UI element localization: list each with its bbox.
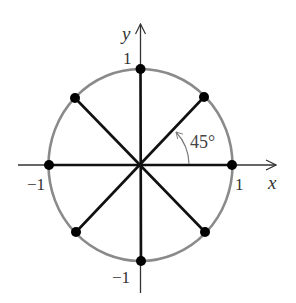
tick-label-x-pos: 1	[235, 175, 244, 194]
angle-arc	[176, 132, 189, 164]
point-135deg	[70, 93, 80, 103]
point-225deg	[71, 227, 81, 237]
point-315deg	[200, 227, 210, 237]
tick-label-y-pos: 1	[123, 49, 132, 68]
y-axis-label: y	[120, 23, 131, 44]
angle-label: 45°	[190, 132, 215, 152]
tick-label-y-neg: −1	[112, 268, 130, 287]
point-45deg	[199, 92, 209, 102]
tick-label-x-neg: −1	[27, 175, 45, 194]
point-0deg	[227, 160, 237, 170]
point-270deg	[136, 256, 146, 266]
point-90deg	[136, 64, 146, 74]
point-180deg	[44, 160, 54, 170]
x-axis-label: x	[267, 172, 277, 193]
unit-circle-diagram: x y 1 −1 1 −1 45°	[0, 0, 296, 303]
